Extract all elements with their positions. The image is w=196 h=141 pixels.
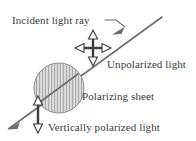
arrow-head-left-icon (75, 44, 84, 53)
light-ray (7, 17, 162, 130)
polarized-arrow-head-down-icon (34, 124, 43, 133)
arrow-head-up-icon (89, 30, 98, 39)
light-ray-line (9, 17, 162, 129)
label-incident-light-ray: Incident light ray (12, 14, 90, 26)
arrow-head-right-icon (102, 44, 111, 53)
light-ray-arrowhead-mid (112, 27, 125, 35)
label-polarizing-sheet: Polarizing sheet (82, 90, 154, 102)
vertically-polarized-arrow (34, 96, 43, 133)
label-vertically-polarized-light: Vertically polarized light (48, 121, 160, 133)
label-unpolarized-light: Unpolarized light (107, 58, 186, 70)
polarization-diagram: Incident light ray Unpolarized light Pol… (0, 0, 196, 141)
unpolarized-arrow-cross (82, 37, 104, 59)
incident-label-leader (105, 20, 125, 27)
